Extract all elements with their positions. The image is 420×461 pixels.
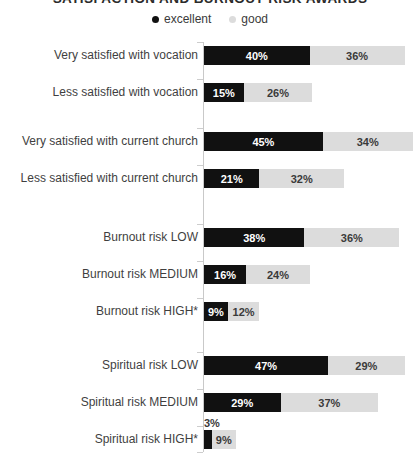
bar-value-label: 36% xyxy=(346,50,368,62)
bar-row: Burnout risk LOW38%36% xyxy=(0,228,420,247)
bar-segment-excellent[interactable]: 15% xyxy=(204,83,244,102)
bar-segment-good[interactable]: 26% xyxy=(244,83,313,102)
legend-label-good: good xyxy=(241,12,268,26)
stacked-bar[interactable]: 16%24% xyxy=(204,265,310,284)
bar-segment-excellent[interactable]: 47% xyxy=(204,356,328,375)
axis-tick xyxy=(197,224,203,225)
bar-value-label: 24% xyxy=(267,269,289,281)
stacked-bar[interactable]: 15%26% xyxy=(204,83,312,102)
bar-value-label: 16% xyxy=(214,269,236,281)
legend-swatch-good xyxy=(229,16,236,23)
bar-segment-excellent[interactable]: 16% xyxy=(204,265,246,284)
bar-value-label: 34% xyxy=(357,136,379,148)
bar-row: Very satisfied with vocation40%36% xyxy=(0,46,420,65)
bar-segment-good[interactable]: 12% xyxy=(228,302,260,321)
bar-row-label: Less satisfied with vocation xyxy=(8,83,198,102)
legend-item-good: good xyxy=(229,12,268,26)
bar-value-label: 45% xyxy=(252,136,274,148)
bar-segment-good[interactable]: 29% xyxy=(328,356,405,375)
plot-area: Very satisfied with vocation40%36%Less s… xyxy=(0,38,420,458)
axis-tick xyxy=(197,79,203,80)
bar-row-label: Very satisfied with vocation xyxy=(8,46,198,65)
bar-row: Spiritual risk MEDIUM29%37% xyxy=(0,393,420,412)
legend-swatch-excellent xyxy=(152,16,159,23)
axis-tick xyxy=(197,128,203,129)
bar-segment-good[interactable]: 32% xyxy=(259,169,343,188)
value-axis-line xyxy=(203,42,204,452)
bar-value-label: 15% xyxy=(213,87,235,99)
axis-tick xyxy=(197,261,203,262)
stacked-bar[interactable]: 47%29% xyxy=(204,356,405,375)
bar-segment-excellent[interactable]: 45% xyxy=(204,132,323,151)
stacked-bar[interactable]: 45%34% xyxy=(204,132,413,151)
axis-tick xyxy=(197,42,203,43)
axis-tick xyxy=(197,389,203,390)
axis-tick xyxy=(197,165,203,166)
bar-segment-excellent[interactable]: 38% xyxy=(204,228,304,247)
bar-value-label: 40% xyxy=(246,50,268,62)
bar-value-label: 38% xyxy=(243,232,265,244)
bar-segment-good[interactable]: 9% xyxy=(212,430,236,449)
bar-row-label: Very satisfied with current church xyxy=(8,132,198,151)
bar-segment-excellent[interactable]: 29% xyxy=(204,393,281,412)
bar-segment-good[interactable]: 24% xyxy=(246,265,309,284)
bar-value-label: 9% xyxy=(208,306,224,318)
bar-segment-good[interactable]: 34% xyxy=(323,132,413,151)
bar-segment-excellent[interactable]: 9% xyxy=(204,302,228,321)
stacked-bar[interactable]: 3%9% xyxy=(204,430,236,449)
bar-value-label: 3% xyxy=(204,417,220,429)
bar-value-label: 9% xyxy=(216,434,232,446)
stacked-bar[interactable]: 21%32% xyxy=(204,169,344,188)
legend-item-excellent: excellent xyxy=(152,12,211,26)
bar-segment-excellent[interactable]: 3% xyxy=(204,430,212,449)
bar-segment-excellent[interactable]: 21% xyxy=(204,169,259,188)
bar-value-label: 21% xyxy=(221,173,243,185)
bar-row: Burnout risk MEDIUM16%24% xyxy=(0,265,420,284)
axis-tick xyxy=(197,298,203,299)
bar-row-label: Less satisfied with current church xyxy=(8,169,198,188)
bar-value-label: 26% xyxy=(267,87,289,99)
stacked-bar[interactable]: 29%37% xyxy=(204,393,378,412)
bar-value-label: 37% xyxy=(318,397,340,409)
bar-value-label: 12% xyxy=(233,306,255,318)
bar-row: Spiritual risk LOW47%29% xyxy=(0,356,420,375)
axis-tick xyxy=(197,352,203,353)
bar-row: Less satisfied with vocation15%26% xyxy=(0,83,420,102)
bar-value-label: 29% xyxy=(231,397,253,409)
chart-container: SATISFACTION AND BURNOUT RISK AWARDS exc… xyxy=(0,0,420,461)
bar-value-label: 32% xyxy=(291,173,313,185)
chart-legend: excellent good xyxy=(0,12,420,26)
bar-row: Less satisfied with current church21%32% xyxy=(0,169,420,188)
axis-tick xyxy=(197,452,203,453)
bar-row-label: Burnout risk MEDIUM xyxy=(8,265,198,284)
bar-row-label: Burnout risk HIGH* xyxy=(8,302,198,321)
bar-row: Very satisfied with current church45%34% xyxy=(0,132,420,151)
bar-row-label: Burnout risk LOW xyxy=(8,228,198,247)
bar-value-label: 47% xyxy=(255,360,277,372)
bar-row-label: Spiritual risk HIGH* xyxy=(8,430,198,449)
legend-label-excellent: excellent xyxy=(164,12,211,26)
bar-row: Burnout risk HIGH*9%12% xyxy=(0,302,420,321)
axis-tick xyxy=(197,426,203,427)
bar-segment-excellent[interactable]: 40% xyxy=(204,46,310,65)
bar-segment-good[interactable]: 36% xyxy=(310,46,405,65)
stacked-bar[interactable]: 9%12% xyxy=(204,302,259,321)
bar-segment-good[interactable]: 37% xyxy=(281,393,379,412)
bar-segment-good[interactable]: 36% xyxy=(304,228,399,247)
stacked-bar[interactable]: 40%36% xyxy=(204,46,405,65)
bar-value-label: 29% xyxy=(355,360,377,372)
stacked-bar[interactable]: 38%36% xyxy=(204,228,399,247)
bar-value-label: 36% xyxy=(341,232,363,244)
chart-title: SATISFACTION AND BURNOUT RISK AWARDS xyxy=(0,0,420,6)
bar-row-label: Spiritual risk LOW xyxy=(8,356,198,375)
bar-row: Spiritual risk HIGH*3%9% xyxy=(0,430,420,449)
bar-row-label: Spiritual risk MEDIUM xyxy=(8,393,198,412)
